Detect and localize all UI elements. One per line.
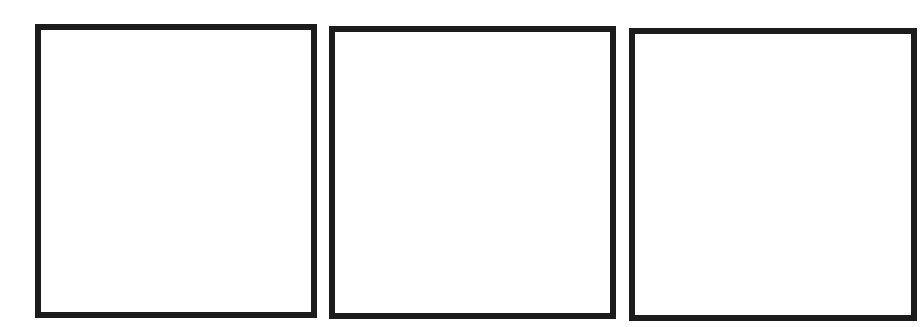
panel-2 bbox=[329, 26, 616, 319]
panel-3 bbox=[629, 28, 917, 321]
panel-1 bbox=[35, 24, 317, 318]
